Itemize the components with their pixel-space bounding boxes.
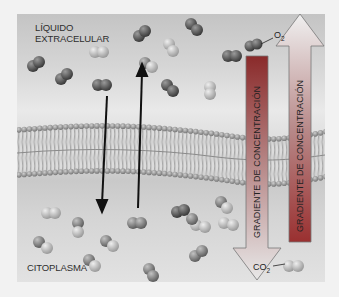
co2-subscript: 2 — [267, 267, 271, 274]
co2-label: CO2 — [253, 262, 270, 274]
o2-symbol: O — [274, 30, 281, 40]
o2-label: O2 — [274, 30, 285, 42]
diagram-frame: LÍQUIDO EXTRACELULAR CITOPLASMA — [17, 14, 325, 282]
gradient-arrows — [17, 14, 325, 282]
gradient-label-up: GRADIENTE DE CONCENTRACIÓN — [295, 80, 305, 232]
gradient-label-down: GRADIENTE DE CONCENTRACIÓN — [252, 86, 262, 238]
co2-symbol: CO — [253, 262, 267, 272]
o2-subscript: 2 — [281, 35, 285, 42]
